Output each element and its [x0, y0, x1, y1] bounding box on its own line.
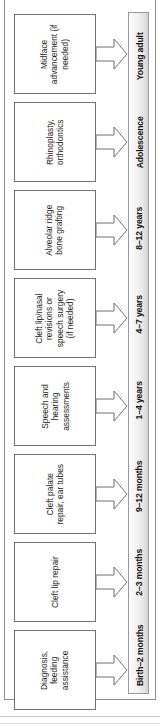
stage-label-4-7-years: 4–7 years: [135, 295, 144, 333]
stage-cell-adolescence: Adolescence: [129, 99, 150, 185]
stage-cell-young-adult: Young adult: [129, 13, 150, 99]
step-label-birth-2-months: Diagnosis,feedingassistance: [40, 650, 71, 690]
step-label-9-12-months: Cleft palaterepair, ear tubes: [45, 464, 66, 525]
right-block-arrow: [96, 564, 128, 600]
stage-cell-2-3-months: 2–3 months: [129, 529, 150, 615]
stage-label-2-3-months: 2–3 months: [135, 549, 144, 596]
step-label-young-adult: Midfaceadvancement (ifneeded): [40, 24, 71, 84]
stage-cell-1-4-years: 1–4 years: [129, 357, 150, 443]
step-label-8-12-years: Alveolar ridgebone grafting: [45, 204, 66, 255]
stage-cell-9-12-months: 9–12 months: [129, 443, 150, 529]
right-block-arrow: [96, 212, 128, 248]
step-label-1-4-years: Speech andhearingassessments: [40, 382, 71, 431]
step-box-9-12-months: Cleft palaterepair, ear tubes: [14, 454, 96, 534]
step-box-birth-2-months: Diagnosis,feedingassistance: [14, 630, 96, 710]
stage-cell-4-7-years: 4–7 years: [129, 271, 150, 357]
stage-label-adolescence: Adolescence: [135, 116, 144, 168]
page-divider-rule-secondary: [0, 723, 160, 724]
stage-label-9-12-months: 9–12 months: [135, 460, 144, 511]
stage-label-birth-2-months: Birth–2 months: [135, 624, 144, 686]
timeline-stage-bar: Young adult Adolescence 8–12 years 4–7 y…: [128, 12, 149, 694]
step-label-4-7-years: Cleft lip/nasalrevisions orspeech surger…: [34, 289, 75, 346]
stage-label-8-12-years: 8–12 years: [135, 207, 144, 250]
step-box-young-adult: Midfaceadvancement (ifneeded): [14, 14, 96, 94]
step-box-2-3-months: Cleft lip repair: [14, 542, 96, 622]
right-block-arrow: [96, 388, 128, 424]
right-block-arrow: [96, 124, 128, 160]
step-label-adolescence: Rhinoplasty,orthodontics: [45, 119, 66, 165]
stage-label-young-adult: Young adult: [135, 32, 144, 80]
right-block-arrow: [96, 652, 128, 688]
stage-cell-8-12-years: 8–12 years: [129, 185, 150, 271]
page-divider-rule: [0, 716, 160, 717]
step-box-8-12-years: Alveolar ridgebone grafting: [14, 190, 96, 270]
stage-cell-birth-2-months: Birth–2 months: [129, 615, 150, 695]
step-box-adolescence: Rhinoplasty,orthodontics: [14, 102, 96, 182]
right-block-arrow: [96, 300, 128, 336]
step-label-2-3-months: Cleft lip repair: [50, 556, 60, 608]
step-box-4-7-years: Cleft lip/nasalrevisions orspeech surger…: [14, 278, 96, 358]
right-block-arrow: [96, 36, 128, 72]
step-box-1-4-years: Speech andhearingassessments: [14, 366, 96, 446]
stage-label-1-4-years: 1–4 years: [135, 381, 144, 419]
right-block-arrow: [96, 476, 128, 512]
